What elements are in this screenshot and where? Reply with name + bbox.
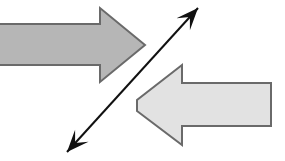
right-pointing-block-arrow (0, 8, 145, 82)
left-pointing-block-arrow (137, 65, 271, 145)
vector-figure (0, 0, 285, 161)
figure-canvas (0, 0, 285, 161)
